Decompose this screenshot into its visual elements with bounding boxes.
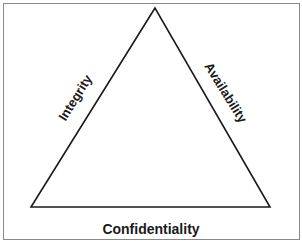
cia-triad-diagram: Integrity Availability Confidentiality [0, 0, 302, 244]
integrity-label: Integrity [55, 71, 95, 123]
availability-label: Availability [201, 60, 250, 126]
confidentiality-label: Confidentiality [102, 221, 199, 237]
